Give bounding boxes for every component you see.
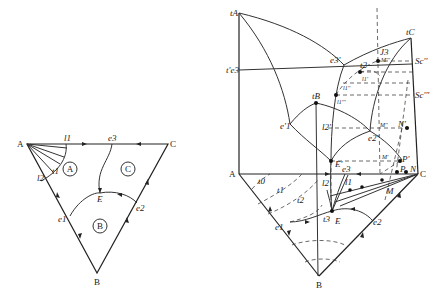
label-Np: N'	[397, 119, 407, 129]
vertex-A-label: A	[17, 139, 24, 149]
boundary-e1-E-e2	[70, 192, 137, 216]
label-t1: t1	[277, 185, 284, 195]
point-e1-label: e1	[58, 214, 67, 224]
arrow-icon	[325, 172, 330, 176]
region-B-label: B	[97, 221, 103, 231]
vertex-B-label-right: B	[316, 280, 322, 290]
axis-B-vertical	[316, 103, 318, 276]
label-l1ppp: l1'''	[337, 99, 346, 105]
label-l1pp: l1''	[343, 85, 351, 91]
arrow-icon	[356, 172, 361, 176]
point-e2-label: e2	[136, 203, 145, 213]
label-Mpp: M''	[379, 122, 388, 128]
region-C-label: C	[125, 164, 131, 174]
arrow-icon	[82, 142, 87, 146]
label-E-base: E	[334, 216, 341, 226]
label-l1-base: l1	[345, 177, 352, 187]
arrow-icon	[136, 142, 141, 146]
curve-tA-e3p	[239, 13, 344, 65]
label-P: P	[399, 164, 406, 174]
vertex-A-label-right: A	[229, 169, 236, 179]
isotherm-te3	[239, 64, 412, 70]
label-tA: tA	[230, 8, 239, 18]
point-e3-label: e3	[108, 133, 117, 143]
label-tC: tC	[406, 27, 416, 37]
label-Sc2: Sc''	[415, 56, 428, 66]
label-l1p-upper: l1'	[362, 76, 369, 82]
label-t3: t3	[323, 214, 331, 224]
left-ternary-diagram: A C B A C B l1 l2 t1 e3 E e2 e1	[17, 133, 176, 287]
label-Pp: P'	[401, 154, 410, 164]
region-A-label: A	[67, 164, 74, 174]
label-e2-base: e2	[373, 217, 382, 227]
point-E-label: E	[96, 194, 103, 204]
base-CB	[319, 174, 418, 276]
arrow-icon	[117, 193, 122, 197]
phase-diagram-canvas: A C B A C B l1 l2 t1 e3 E e2 e1	[0, 0, 446, 294]
vertex-C-label: C	[170, 139, 176, 149]
label-e3-base: e3	[342, 164, 351, 174]
label-Sc3: Sc'''	[415, 90, 430, 100]
curve-e2p-Ep	[331, 131, 370, 161]
label-t2-top: t2	[360, 60, 368, 70]
label-t2: t2	[297, 195, 305, 205]
curve-e1p-tB	[290, 103, 316, 124]
point-t1-label: t1	[52, 166, 59, 176]
arrow-icon	[350, 207, 355, 211]
arrow-icon	[268, 206, 272, 212]
label-e3p: e3'	[330, 55, 341, 65]
right-prism-diagram: tA tC tB t'e3 e3' e'1 e2' E' t2 J3 M''' …	[226, 8, 430, 290]
label-t0: t0	[258, 176, 266, 186]
label-e1-base: e1	[275, 222, 284, 232]
label-l2-base: l2	[322, 178, 330, 188]
label-Mppp: M'''	[380, 57, 391, 63]
label-e1p: e'1	[280, 121, 290, 131]
label-J3: J3	[380, 47, 389, 57]
vertex-B-label: B	[94, 277, 100, 287]
curve-tC-e2p	[370, 38, 411, 131]
point-l2-label: l2	[37, 173, 45, 183]
boundary-e3-E	[99, 144, 112, 193]
label-Mp: M'	[381, 154, 389, 160]
label-l2p: l2'	[322, 122, 332, 132]
arrow-icon	[56, 192, 60, 198]
point-l1-label: l1	[64, 133, 71, 143]
label-tB: tB	[312, 91, 321, 101]
left-triangle	[27, 144, 168, 273]
label-N: N	[409, 164, 417, 174]
label-e2p: e2'	[368, 133, 379, 143]
label-M-base: M	[385, 186, 394, 196]
vertex-C-label-right: C	[420, 169, 426, 179]
label-te3: t'e3	[226, 65, 239, 75]
arrow-icon	[305, 220, 310, 224]
